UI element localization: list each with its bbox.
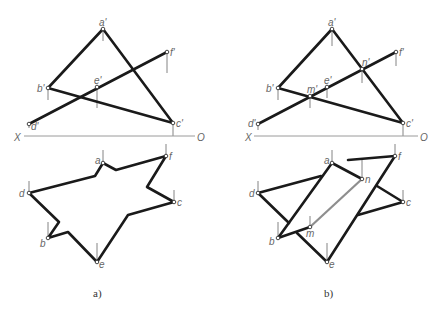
label-m-prime-b: m' — [307, 84, 318, 95]
label-e-prime: e' — [94, 75, 103, 86]
panel-a: a' b' c' d' e' f' X O a f c e b d a) — [13, 17, 205, 300]
label-d: d — [19, 188, 25, 199]
label-f-b: f — [398, 151, 402, 162]
caption-b: b) — [324, 287, 334, 300]
triangle-abc-front-b — [278, 29, 403, 123]
label-f: f — [169, 151, 173, 162]
label-n-prime-b: n' — [362, 57, 371, 68]
label-b: b — [40, 238, 46, 249]
label-e: e — [99, 259, 105, 270]
label-d-b: d — [249, 188, 255, 199]
axis-label-x: X — [13, 132, 21, 143]
point-markers-a — [27, 27, 176, 264]
axis-label-o: O — [197, 132, 205, 143]
top-view-b — [258, 156, 403, 262]
label-d-prime-b: d' — [248, 118, 257, 129]
projection-diagram: a' b' c' d' e' f' X O a f c e b d a) — [0, 0, 440, 313]
label-e-b: e — [329, 259, 335, 270]
label-m-b: m — [306, 228, 314, 239]
label-f-prime-b: f' — [399, 47, 405, 58]
label-b-prime-b: b' — [266, 83, 275, 94]
label-d-prime: d' — [31, 121, 40, 132]
label-a-prime: a' — [99, 17, 108, 28]
label-f-prime: f' — [170, 47, 176, 58]
label-c: c — [177, 197, 182, 208]
panel-b: a' b' c' d' e' f' n' m' X O a f c e b d … — [244, 17, 428, 300]
point-markers-b — [256, 27, 405, 264]
label-c-prime-b: c' — [406, 118, 414, 129]
caption-a: a) — [93, 287, 102, 300]
label-b-b: b — [269, 236, 275, 247]
triangle-abc-front — [48, 29, 173, 123]
label-a-b: a — [324, 155, 330, 166]
label-a-prime-b: a' — [328, 17, 337, 28]
label-e-prime-b: e' — [324, 75, 333, 86]
label-c-prime: c' — [176, 118, 184, 129]
label-n-b: n — [365, 174, 371, 185]
label-c-b: c — [406, 197, 411, 208]
axis-label-x-b: X — [244, 132, 252, 143]
axis-label-o-b: O — [420, 132, 428, 143]
top-view-outline-a — [29, 156, 174, 262]
label-a: a — [95, 155, 101, 166]
label-b-prime: b' — [37, 83, 46, 94]
